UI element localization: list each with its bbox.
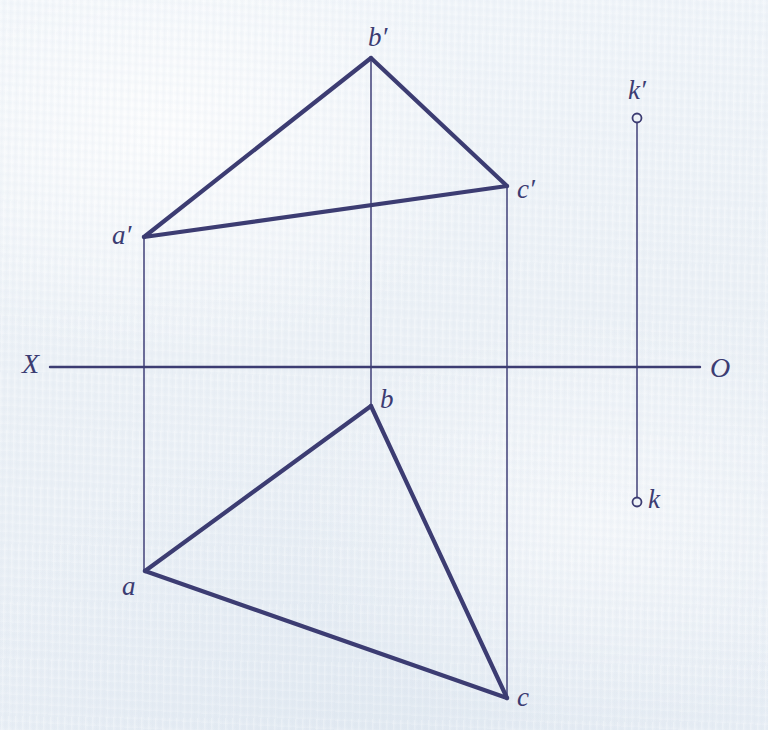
projection-figure	[0, 0, 768, 730]
point-label-c: c	[517, 684, 529, 711]
point-label-c-prime: c′	[517, 176, 535, 203]
projection-lines-group	[144, 58, 637, 698]
axis-label-o: O	[710, 354, 730, 382]
drawing-sheet: a′b′c′abck′k X O	[0, 0, 768, 730]
triangle-edges-group	[144, 58, 507, 698]
axis-label-x: X	[22, 350, 39, 378]
edge-a-b	[145, 406, 371, 571]
edge-a-c	[145, 571, 507, 698]
point-marker-k	[633, 498, 642, 507]
point-marker-k-prime	[633, 114, 642, 123]
point-label-b-prime: b′	[368, 24, 387, 51]
edge-b-prime-c-prime	[371, 58, 507, 186]
point-label-a-prime: a′	[112, 222, 131, 249]
point-label-k-prime: k′	[628, 77, 646, 104]
edge-b-c	[371, 406, 507, 698]
point-label-a: a	[122, 573, 136, 600]
point-label-k: k	[648, 486, 660, 513]
point-label-b: b	[380, 386, 394, 413]
